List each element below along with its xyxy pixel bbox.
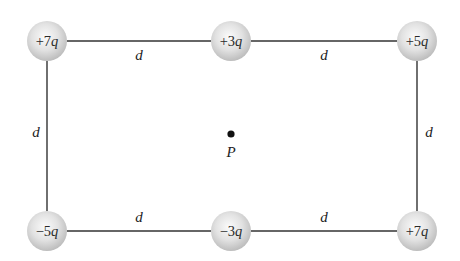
charge-bottom-middle: −3q xyxy=(211,211,251,251)
distance-label-top-left: d xyxy=(135,47,143,63)
charge-label: +7q xyxy=(406,223,429,239)
distance-label-right: d xyxy=(425,124,433,140)
charge-label: −5q xyxy=(36,223,59,239)
charge-label: +5q xyxy=(406,33,429,49)
charge-diagram: d d d d d d +7q +3q +5q −5q −3q +7q P xyxy=(0,0,460,261)
distance-label-bottom-right: d xyxy=(320,209,328,225)
charge-label: +7q xyxy=(36,33,59,49)
charge-label: −3q xyxy=(220,223,243,239)
charge-top-middle: +3q xyxy=(211,21,251,61)
charge-top-right: +5q xyxy=(397,21,437,61)
distance-label-left: d xyxy=(32,124,40,140)
distance-label-top-right: d xyxy=(320,47,328,63)
point-p-label: P xyxy=(225,144,235,160)
point-p-dot xyxy=(227,130,234,137)
charge-bottom-left: −5q xyxy=(27,211,67,251)
distance-label-bottom-left: d xyxy=(135,209,143,225)
charge-label: +3q xyxy=(220,33,243,49)
charge-top-left: +7q xyxy=(27,21,67,61)
charge-bottom-right: +7q xyxy=(397,211,437,251)
